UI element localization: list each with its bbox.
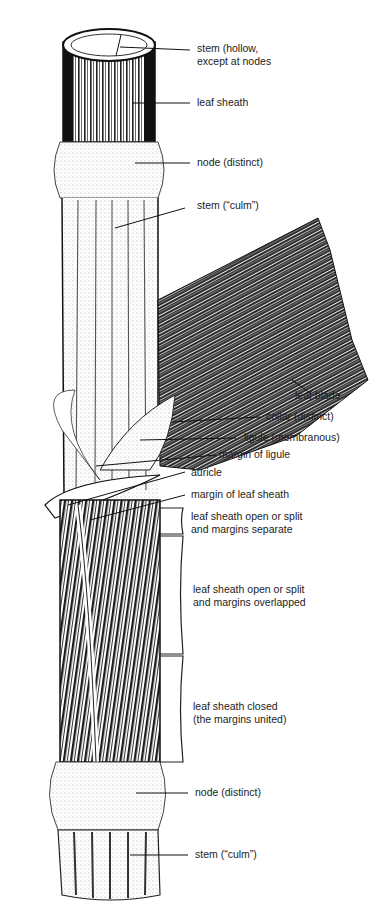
label-node-bottom: node (distinct) (195, 786, 261, 799)
label-leaf-sheath-top: leaf sheath (197, 96, 248, 109)
label-margin-sheath: margin of leaf sheath (191, 488, 289, 501)
label-auricle: auricle (191, 466, 222, 479)
label-ligule: ligule (membranous) (244, 431, 340, 444)
lower-sheath-drawing (60, 500, 160, 762)
label-collar: collar (distinct) (266, 410, 334, 423)
label-sheath-separate: leaf sheath open or splitand margins sep… (191, 510, 303, 536)
label-stem-hollow: stem (hollow,except at nodes (197, 42, 271, 68)
label-margin-ligule: margin of ligule (219, 448, 290, 461)
label-leaf-blade: leaf blade (295, 389, 341, 402)
label-stem-culm-top: stem (“culm”) (197, 199, 259, 212)
label-node-top: node (distinct) (197, 156, 263, 169)
top-sheath-drawing (63, 29, 155, 142)
label-sheath-closed: leaf sheath closed(the margins united) (193, 700, 286, 726)
brace-marks (160, 508, 183, 762)
grass-anatomy-illustration (0, 0, 380, 923)
label-stem-culm-bottom: stem (“culm”) (195, 848, 257, 861)
bottom-culm-drawing (58, 830, 160, 900)
label-sheath-overlapped: leaf sheath open or splitand margins ove… (193, 583, 306, 609)
